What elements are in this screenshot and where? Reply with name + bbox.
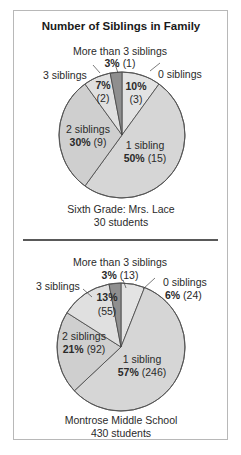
figure-title: Number of Siblings in Family [42,20,201,32]
label-0-siblings-school: 0 siblings [163,276,207,288]
label-more-than-3-value: 3% (1) [105,57,136,69]
label-0-siblings-pct: 10% [125,80,147,92]
label-3-siblings-school: 3 siblings [36,280,80,292]
label-1-sibling-school: 1 sibling [123,353,162,365]
label-1-sibling-value: 50% (15) [124,152,167,164]
chart2-total: 430 students [91,427,151,439]
sibling-charts: Number of Siblings in Family More than 3… [0,0,241,455]
label-more-than-3-school: More than 3 siblings [73,256,167,268]
pie-chart-sixth-grade [59,72,185,198]
label-more-than-3-school-value: 3% (13) [102,269,139,281]
label-2-siblings: 2 siblings [66,123,110,135]
label-3-siblings-count: (2) [97,92,110,104]
label-more-than-3: More than 3 siblings [73,45,167,57]
label-0-siblings-count: (3) [130,93,143,105]
label-3-siblings-school-count: (55) [98,305,117,317]
label-0-siblings-school-value: 6% (24) [165,289,202,301]
chart2-caption: Montrose Middle School [65,414,178,426]
label-1-sibling-school-value: 57% (246) [118,366,166,378]
label-3-siblings-school-pct: 13% [96,291,118,303]
label-2-siblings-value: 30% (9) [70,136,107,148]
label-0-siblings: 0 siblings [158,68,202,80]
chart1-caption: Sixth Grade: Mrs. Lace [67,203,175,215]
label-3-siblings-pct: 7% [95,79,111,91]
label-3-siblings: 3 siblings [43,69,87,81]
label-2-siblings-school-value: 21% (92) [63,343,106,355]
label-2-siblings-school: 2 siblings [62,330,106,342]
chart1-total: 30 students [94,216,148,228]
label-1-sibling: 1 sibling [126,139,165,151]
